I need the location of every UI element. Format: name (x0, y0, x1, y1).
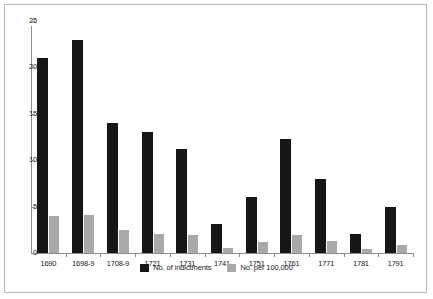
x-axis-tick-mark (170, 253, 171, 257)
bar (315, 179, 326, 253)
bar (327, 241, 337, 253)
bar (107, 123, 118, 253)
bar (280, 139, 291, 253)
bar-group (37, 21, 59, 253)
bar (188, 235, 198, 253)
bar-group (72, 21, 94, 253)
bar (223, 248, 233, 253)
legend-swatch (227, 264, 236, 272)
bar (119, 230, 129, 253)
bar-group (280, 21, 302, 253)
bar-group (176, 21, 198, 253)
legend-label: No. per 100,000 (240, 263, 292, 273)
bar-group (246, 21, 268, 253)
x-axis-tick-mark (205, 253, 206, 257)
bar (258, 242, 268, 253)
bar (37, 58, 48, 253)
bar-group (211, 21, 233, 253)
x-axis-tick-mark (135, 253, 136, 257)
bar (362, 249, 372, 253)
bar (142, 132, 153, 253)
bar (292, 235, 302, 253)
bar-group (385, 21, 407, 253)
chart-figure: 0510152025 16901698-91708-91721173117411… (4, 4, 427, 293)
bar (49, 216, 59, 253)
legend-item: No. per 100,000 (227, 263, 292, 273)
bar (397, 245, 407, 253)
bar (176, 149, 187, 253)
bar (154, 234, 164, 253)
bar (84, 215, 94, 253)
bar (72, 40, 83, 253)
legend-swatch (140, 264, 149, 272)
x-axis-tick-mark (66, 253, 67, 257)
bar-group (350, 21, 372, 253)
bar (385, 207, 396, 253)
bar-group (107, 21, 129, 253)
x-axis-tick-mark (274, 253, 275, 257)
bar-group (142, 21, 164, 253)
bar-group (315, 21, 337, 253)
x-axis-tick-mark (309, 253, 310, 257)
bar (246, 197, 257, 253)
x-axis-tick-mark (413, 253, 414, 257)
x-axis-tick-mark (239, 253, 240, 257)
x-axis-tick-mark (100, 253, 101, 257)
bar (211, 224, 222, 253)
legend-item: No. of indictments (140, 263, 211, 273)
bar (350, 234, 361, 253)
plot-area: 0510152025 16901698-91708-91721173117411… (31, 21, 414, 254)
x-axis-tick-mark (378, 253, 379, 257)
chart-legend: No. of indictmentsNo. per 100,000 (5, 261, 428, 275)
bar-series-container (32, 21, 414, 254)
legend-label: No. of indictments (153, 263, 211, 273)
x-axis-tick-mark (344, 253, 345, 257)
